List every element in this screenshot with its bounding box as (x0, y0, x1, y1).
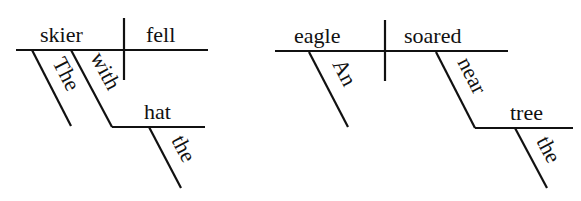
predicate-word: fell (146, 22, 175, 47)
diagram-right: eagle soared An near tree the (275, 20, 573, 188)
object-word: tree (510, 100, 543, 125)
preposition-word: near (453, 53, 493, 99)
predicate-word: soared (404, 23, 461, 48)
subject-word: skier (40, 22, 83, 47)
article-word: The (48, 53, 86, 95)
object-word: hat (144, 99, 171, 124)
object-article-word: the (167, 131, 202, 166)
subject-word: eagle (294, 23, 340, 48)
diagram-left: skier fell The with hat the (16, 18, 208, 188)
object-article-word: the (532, 132, 567, 167)
sentence-diagrams: skier fell The with hat the eagle soared… (0, 0, 581, 201)
article-word: An (328, 55, 363, 90)
